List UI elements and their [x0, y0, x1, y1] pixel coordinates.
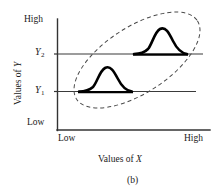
figure-container: High Y2 Y1 Low Values of Y Low High Valu… — [0, 0, 219, 192]
y-axis-low-label: Low — [27, 118, 44, 128]
y-axis-level-2-label: Y2 — [35, 47, 44, 57]
y-axis-title: Values of Y — [14, 62, 24, 105]
y-axis-level-1-label: Y1 — [35, 85, 44, 95]
x-axis-low-label: Low — [58, 134, 75, 144]
x-axis-high-label: High — [184, 134, 203, 144]
x-axis-title-prefix: Values of — [98, 154, 136, 164]
y-axis-title-prefix: Values of — [13, 67, 23, 105]
y-axis-level-2-subscript: 2 — [41, 51, 45, 59]
y-axis-level-1-variable: Y — [35, 84, 41, 95]
y-axis-title-variable: Y — [13, 62, 23, 67]
scatter-envelope-ellipse — [59, 0, 216, 127]
x-axis-title-variable: X — [136, 154, 142, 164]
y-axis-high-label: High — [24, 15, 43, 25]
figure-caption: (b) — [127, 176, 138, 186]
distribution-curve-y1 — [79, 67, 132, 91]
y-axis-level-2-variable: Y — [35, 46, 41, 57]
y-axis-level-1-subscript: 1 — [41, 89, 45, 97]
x-axis-title: Values of X — [98, 155, 142, 165]
distribution-curve-y2 — [134, 28, 187, 54]
